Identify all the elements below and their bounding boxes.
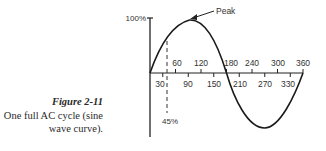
tick-label-90: 90: [183, 79, 193, 89]
tick-label-120: 120: [194, 58, 208, 68]
upper-tick-labels: 60 120 180 240 300 360: [172, 58, 310, 68]
tick-label-240: 240: [245, 58, 259, 68]
tick-label-150: 150: [207, 79, 221, 89]
tick-label-180: 180: [224, 58, 238, 68]
lower-tick-labels: 30 90 150 210 270 330: [155, 79, 295, 89]
tick-label-300: 300: [271, 58, 285, 68]
y-axis-max-label: 100%: [126, 14, 146, 23]
peak-arrowhead-icon: [190, 14, 197, 20]
tick-label-60: 60: [172, 58, 182, 68]
sine-wave-curve: [150, 20, 303, 128]
tick-label-30: 30: [155, 79, 165, 89]
sine-wave-diagram: 100% 60 120 180 240 300 360 30 90 150 21…: [0, 0, 326, 151]
tick-label-360: 360: [296, 58, 310, 68]
dashed-marker-label: 45%: [162, 117, 178, 126]
tick-label-210: 210: [233, 79, 247, 89]
peak-label: Peak: [216, 6, 236, 16]
tick-label-330: 330: [281, 79, 295, 89]
tick-label-270: 270: [258, 79, 272, 89]
